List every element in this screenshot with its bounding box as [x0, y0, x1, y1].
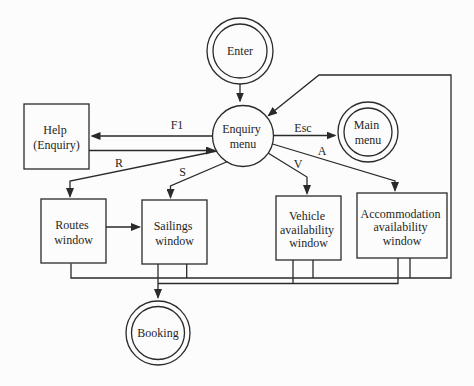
edge-label-esc: Esc — [294, 121, 311, 135]
edge-label-a: A — [318, 144, 327, 158]
edge-label-v: V — [294, 157, 303, 171]
state-diagram-canvas: Enter Enquiry menu Main menu Help (Enqui… — [0, 0, 474, 386]
edge-label-s: S — [179, 165, 186, 179]
enquiry-menu-circle — [213, 106, 274, 167]
enquiry-menu-state — [213, 106, 274, 167]
edge-label-r: R — [115, 156, 123, 170]
main-menu-inner-circle — [344, 108, 392, 156]
booking-label: Booking — [137, 326, 178, 340]
main-menu-label: Main menu — [354, 118, 382, 147]
routes-window-label: Routes window — [54, 218, 93, 247]
edge-enquiry-to-routes-r — [70, 151, 217, 197]
sailings-window-label: Sailings window — [154, 219, 196, 248]
enter-label: Enter — [227, 44, 253, 58]
diagram-page: Enter Enquiry menu Main menu Help (Enqui… — [0, 0, 474, 386]
main-menu-state — [338, 102, 398, 162]
edge-label-f1: F1 — [171, 118, 184, 132]
